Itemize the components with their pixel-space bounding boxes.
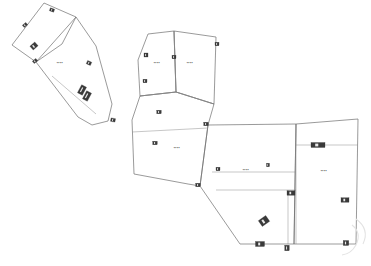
- survey-marker[interactable]: [267, 163, 270, 167]
- parcel-code-label: ▪▪▪▪: [321, 169, 328, 173]
- survey-marker[interactable]: [204, 122, 209, 126]
- survey-marker[interactable]: [215, 42, 219, 46]
- marker-notch-icon: [173, 56, 174, 58]
- survey-marker[interactable]: [30, 42, 38, 50]
- site-plan-canvas: ▪▪▪▪▪▪▪▪▪▪▪▪▪▪▪▪▪▪▪▪▪▪▪▪: [0, 0, 371, 266]
- marker-notch-icon: [345, 242, 346, 245]
- building-marker[interactable]: [258, 216, 269, 227]
- marker-notch-icon: [144, 80, 145, 82]
- divider-north-vertical: [174, 31, 176, 92]
- divider-central-top: [140, 92, 214, 104]
- parcel-code-label: ▪▪▪▪: [154, 61, 161, 65]
- parcel-east-right[interactable]: [294, 119, 358, 244]
- marker-notch-icon: [289, 192, 291, 195]
- building-marker[interactable]: [311, 143, 325, 148]
- marker-notch-icon: [217, 168, 218, 170]
- marker-notch-icon: [197, 184, 198, 186]
- scan-watermark: [342, 219, 365, 255]
- parcel-layer: [12, 3, 358, 244]
- survey-marker[interactable]: [86, 60, 92, 65]
- survey-marker[interactable]: [49, 8, 54, 12]
- marker-notch-icon: [205, 123, 206, 125]
- survey-marker[interactable]: [287, 191, 295, 196]
- divider-central-mid: [132, 128, 208, 132]
- parcel-east-left[interactable]: [200, 124, 296, 244]
- survey-marker[interactable]: [157, 110, 162, 114]
- marker-notch-icon: [267, 164, 268, 166]
- marker-notch-icon: [315, 144, 318, 147]
- survey-marker[interactable]: [110, 118, 115, 122]
- marker-notch-icon: [343, 199, 345, 202]
- survey-marker[interactable]: [153, 141, 158, 145]
- survey-marker[interactable]: [341, 198, 349, 203]
- survey-marker[interactable]: [256, 242, 265, 247]
- parcel-code-label: ▪▪▪▪: [174, 146, 181, 150]
- survey-marker[interactable]: [216, 167, 220, 171]
- map-svg: ▪▪▪▪▪▪▪▪▪▪▪▪▪▪▪▪▪▪▪▪▪▪▪▪: [0, 0, 371, 266]
- marker-notch-icon: [258, 243, 260, 246]
- interior-line-layer: [52, 31, 358, 244]
- survey-marker[interactable]: [144, 53, 148, 57]
- parcel-code-label: ▪▪▪▪: [187, 61, 194, 65]
- marker-notch-icon: [154, 142, 155, 144]
- parcel-strip-northwest[interactable]: [36, 17, 112, 125]
- survey-marker[interactable]: [285, 245, 290, 251]
- marker-notch-icon: [286, 246, 287, 249]
- marker-notch-icon: [216, 43, 217, 45]
- survey-marker[interactable]: [22, 22, 27, 27]
- parcel-code-label: ▪▪▪▪: [57, 61, 64, 65]
- marker-notch-icon: [145, 54, 146, 56]
- label-layer: ▪▪▪▪▪▪▪▪▪▪▪▪▪▪▪▪▪▪▪▪▪▪▪▪: [57, 61, 328, 173]
- survey-marker[interactable]: [172, 55, 176, 59]
- parcel-code-label: ▪▪▪▪: [243, 168, 250, 172]
- survey-marker[interactable]: [143, 79, 147, 83]
- survey-marker[interactable]: [196, 183, 201, 187]
- marker-notch-icon: [158, 111, 159, 113]
- survey-marker[interactable]: [343, 241, 349, 246]
